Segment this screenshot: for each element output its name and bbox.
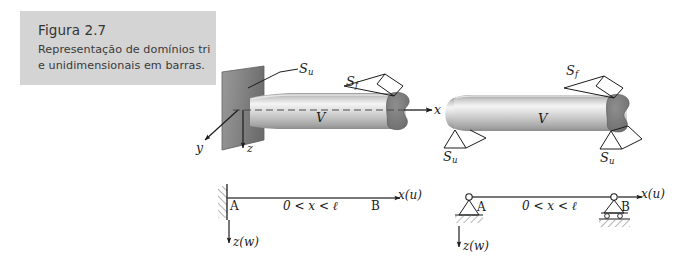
diagram-artwork xyxy=(0,0,691,265)
right-bar-left-nub xyxy=(445,98,454,129)
cantilever-label-node-b: B xyxy=(371,200,380,212)
left-3d-bar-group xyxy=(205,66,432,150)
right-label-sf: Sf xyxy=(566,64,578,79)
left-label-axis-z: z xyxy=(247,143,253,154)
left-label-axis-y: y xyxy=(196,142,203,155)
right-support-left-perspective xyxy=(466,130,486,148)
ss-pin-triangle-a xyxy=(459,200,479,215)
cantilever-label-node-a: A xyxy=(230,200,239,212)
ss-label-axis-x: x(u) xyxy=(641,188,665,200)
ss-ground-hatch-a xyxy=(455,215,483,223)
ss-label-axis-z: z(w) xyxy=(463,240,489,252)
right-bar-body xyxy=(447,95,627,131)
right-label-volume: V xyxy=(538,112,547,125)
left-label-volume: V xyxy=(316,111,325,124)
cantilever-label-axis-x: x(u) xyxy=(398,189,422,201)
left-label-axis-x: x xyxy=(434,104,441,117)
cantilever-wall-hatch xyxy=(218,186,227,218)
figure-page: Figura 2.7 Representação de domínios tri… xyxy=(0,0,691,265)
left-label-su: Su xyxy=(299,62,313,77)
ss-label-node-a: A xyxy=(477,201,486,213)
left-label-sf: Sf xyxy=(346,75,358,90)
ss-label-node-b: B xyxy=(621,201,630,213)
right-label-su-right: Su xyxy=(600,151,614,166)
right-support-left-triangle xyxy=(444,130,466,148)
right-label-su-left: Su xyxy=(443,150,457,165)
cantilever-label-domain: 0 < x < ℓ xyxy=(283,200,338,212)
ss-label-domain: 0 < x < ℓ xyxy=(522,200,577,212)
ss-roller-wheel-2 xyxy=(618,214,623,219)
ss-ground-hatch-b xyxy=(599,219,630,227)
right-support-right-triangle xyxy=(600,131,622,149)
left-bar-body xyxy=(250,93,406,129)
cantilever-label-axis-z: z(w) xyxy=(233,236,259,248)
ss-roller-wheel-1 xyxy=(605,214,610,219)
